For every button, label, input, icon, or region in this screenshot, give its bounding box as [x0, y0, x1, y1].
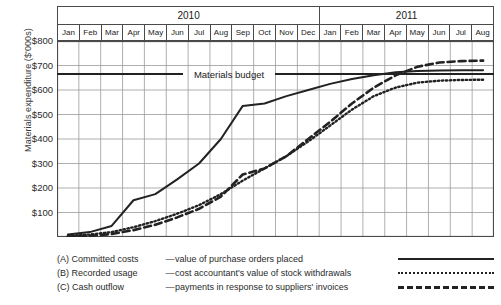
legend-sample-stroke [398, 286, 494, 289]
legend-line-sample-dotted [398, 268, 494, 278]
legend-key-label: (B) Recorded usage [57, 268, 165, 278]
month-header-3: Apr [122, 25, 144, 41]
month-header-14: Mar [362, 25, 384, 41]
y-axis-tick-100: $100 [11, 208, 53, 218]
legend-dash-separator: — [165, 282, 175, 292]
month-header-6: Jul [188, 25, 210, 41]
legend-dash-separator: — [165, 254, 175, 264]
plot-svg: Materials budget [57, 41, 494, 237]
y-axis-tick-200: $200 [11, 183, 53, 193]
y-axis-tick-600: $600 [11, 85, 53, 95]
y-axis-tick-700: $700 [11, 61, 53, 71]
month-header-row: JanFebMarAprMayJunJulAugSepOctNovDecJanF… [57, 25, 494, 41]
y-axis-tick-800: $800 [11, 36, 53, 46]
month-header-2: Mar [101, 25, 123, 41]
y-axis-tick-300: $300 [11, 159, 53, 169]
month-header-0: Jan [57, 25, 79, 41]
legend-row-c: (C) Cash outflow—payments in response to… [57, 280, 494, 294]
chart-legend: (A) Committed costs—value of purchase or… [57, 252, 494, 294]
month-header-9: Oct [253, 25, 275, 41]
month-header-8: Sep [231, 25, 253, 41]
month-header-19: Aug [471, 25, 494, 41]
legend-row-b: (B) Recorded usage—cost accountant's val… [57, 266, 494, 280]
month-header-15: Apr [384, 25, 406, 41]
month-header-18: Jul [449, 25, 471, 41]
legend-line-sample-solid [398, 254, 494, 264]
y-axis-tick-labels: $800$700$600$500$400$300$200$100 [8, 0, 53, 305]
legend-key-label: (C) Cash outflow [57, 282, 165, 292]
legend-key-label: (A) Committed costs [57, 254, 165, 264]
y-axis-tick-500: $500 [11, 110, 53, 120]
month-header-11: Dec [297, 25, 319, 41]
legend-sample-stroke [398, 272, 494, 274]
year-header-row: 20102011 [57, 6, 494, 25]
legend-line-sample-dashed [398, 282, 494, 292]
month-header-1: Feb [79, 25, 101, 41]
legend-row-a: (A) Committed costs—value of purchase or… [57, 252, 494, 266]
month-header-13: Feb [340, 25, 362, 41]
materials-expenditure-chart: Materials expenditure ($'000s) $800$700$… [0, 0, 501, 305]
legend-description: payments in response to suppliers' invoi… [175, 282, 398, 292]
legend-description: value of purchase orders placed [175, 254, 398, 264]
month-header-16: May [406, 25, 428, 41]
materials-budget-label: Materials budget [194, 69, 265, 80]
month-header-17: Jun [428, 25, 450, 41]
year-header-2010: 2010 [57, 6, 319, 25]
plot-area: Materials budget [57, 41, 494, 237]
month-header-10: Nov [275, 25, 297, 41]
year-header-2011: 2011 [319, 6, 494, 25]
month-header-5: Jun [166, 25, 188, 41]
y-axis-tick-400: $400 [11, 134, 53, 144]
month-header-12: Jan [319, 25, 341, 41]
month-header-7: Aug [210, 25, 232, 41]
month-header-4: May [144, 25, 166, 41]
legend-description: cost accountant's value of stock withdra… [175, 268, 398, 278]
legend-dash-separator: — [165, 268, 175, 278]
legend-sample-stroke [398, 258, 494, 260]
